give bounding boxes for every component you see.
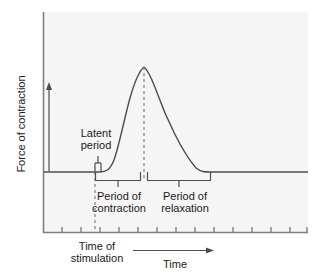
contraction-line1: Period of <box>97 190 141 202</box>
time-arrow <box>133 248 214 254</box>
time-of-stimulation-label: Time ofstimulation <box>60 240 134 264</box>
relaxation-line1: Period of <box>163 190 207 202</box>
stimulation-line2: stimulation <box>71 252 124 264</box>
chart-canvas <box>0 0 318 277</box>
x-axis-label: Time <box>150 258 200 270</box>
y-axis-label: Force of contraction <box>15 59 27 189</box>
latent-period-line1: Latent <box>81 127 112 139</box>
period-of-contraction-label: Period ofcontraction <box>84 190 154 214</box>
stimulation-line1: Time of <box>79 240 115 252</box>
latent-period-label: Latentperiod <box>64 127 128 151</box>
relaxation-line2: relaxation <box>161 202 209 214</box>
muscle-twitch-figure: Force of contraction Latentperiod Period… <box>0 0 318 277</box>
latent-period-line2: period <box>81 139 112 151</box>
contraction-line2: contraction <box>92 202 146 214</box>
period-of-relaxation-label: Period ofrelaxation <box>150 190 220 214</box>
